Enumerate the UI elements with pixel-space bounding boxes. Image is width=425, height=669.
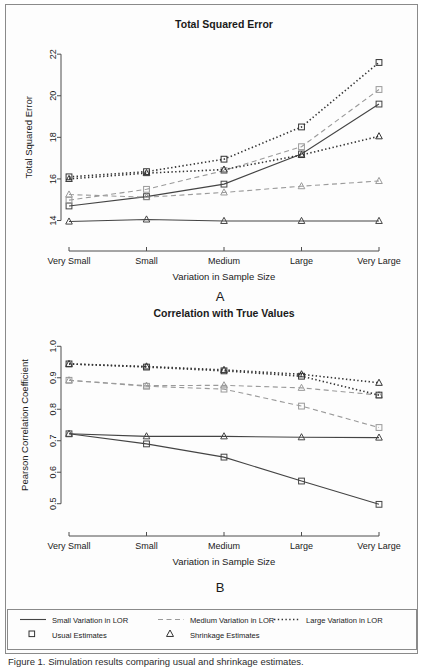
x-axis-tick-label: Very Small bbox=[47, 256, 90, 266]
y-axis-tick-label: 16 bbox=[48, 174, 58, 184]
x-axis-tick-label: Medium bbox=[208, 256, 240, 266]
x-axis-title: Variation in Sample Size bbox=[173, 271, 276, 282]
series-dotted-triangle bbox=[66, 133, 383, 182]
panel-a-total-squared-error: Total Squared Error1416182022Total Squar… bbox=[6, 5, 417, 305]
legend-label-large: Large Variation in LOR bbox=[306, 616, 383, 625]
series-dashed-triangle bbox=[66, 377, 383, 398]
x-axis-title: Variation in Sample Size bbox=[173, 556, 276, 567]
series-solid-triangle bbox=[66, 216, 383, 224]
series-path bbox=[69, 434, 379, 505]
y-axis-tick-label: 18 bbox=[48, 132, 58, 142]
y-axis-tick-label: 0.5 bbox=[48, 497, 58, 510]
series-dotted-square bbox=[66, 60, 382, 180]
y-axis-title: Total Squared Error bbox=[23, 96, 34, 178]
chart-title: Correlation with True Values bbox=[153, 307, 294, 319]
figure-frame: Total Squared Error1416182022Total Squar… bbox=[5, 4, 418, 654]
x-axis-tick-label: Large bbox=[290, 541, 313, 551]
data-point-triangle bbox=[376, 133, 383, 139]
chart-title: Total Squared Error bbox=[175, 18, 273, 30]
panel-letter: B bbox=[216, 580, 225, 595]
x-axis-tick-label: Very Large bbox=[357, 541, 401, 551]
legend-marker-triangle bbox=[167, 630, 174, 636]
panel-b-correlation-true-values: Correlation with True Values0.50.60.70.8… bbox=[6, 295, 417, 595]
chart-panel-a: Total Squared Error1416182022Total Squar… bbox=[6, 5, 419, 305]
y-axis-tick-label: 1.0 bbox=[48, 340, 58, 353]
data-point-triangle bbox=[376, 177, 383, 183]
x-axis-tick-label: Very Small bbox=[47, 541, 90, 551]
y-axis-tick-label: 0.8 bbox=[48, 403, 58, 416]
data-point-triangle bbox=[66, 191, 73, 197]
series-dashed-square bbox=[66, 87, 382, 203]
figure-legend: Small Variation in LORMedium Variation i… bbox=[6, 605, 417, 653]
y-axis-tick-label: 20 bbox=[48, 91, 58, 101]
series-path bbox=[69, 219, 379, 221]
legend-svg: Small Variation in LORMedium Variation i… bbox=[6, 605, 419, 653]
y-axis-tick-label: 0.9 bbox=[48, 372, 58, 385]
x-axis-tick-label: Very Large bbox=[357, 256, 401, 266]
figure-caption: Figure 1. Simulation results comparing u… bbox=[8, 656, 417, 668]
y-axis-title: Pearson Correlation Coefficient bbox=[19, 359, 30, 491]
series-solid-square bbox=[66, 431, 382, 507]
chart-panel-b: Correlation with True Values0.50.60.70.8… bbox=[6, 295, 419, 595]
x-axis-tick-label: Large bbox=[290, 256, 313, 266]
x-axis-tick-label: Small bbox=[135, 541, 158, 551]
legend-label-medium: Medium Variation in LOR bbox=[190, 616, 275, 625]
y-axis-tick-label: 14 bbox=[48, 216, 58, 226]
x-axis-tick-label: Small bbox=[135, 256, 158, 266]
legend-label-usual: Usual Estimates bbox=[52, 631, 107, 640]
legend-label-shrinkage: Shrinkage Estimates bbox=[190, 631, 260, 640]
legend-marker-square bbox=[29, 631, 35, 637]
y-axis-tick-label: 0.7 bbox=[48, 434, 58, 447]
y-axis-tick-label: 0.6 bbox=[48, 466, 58, 479]
data-point-square bbox=[376, 60, 382, 66]
series-solid-triangle bbox=[66, 430, 383, 440]
y-axis-tick-label: 22 bbox=[48, 49, 58, 59]
series-path bbox=[69, 434, 379, 438]
series-path bbox=[69, 104, 379, 206]
x-axis-tick-label: Medium bbox=[208, 541, 240, 551]
legend-label-small: Small Variation in LOR bbox=[52, 616, 129, 625]
series-path bbox=[69, 62, 379, 176]
